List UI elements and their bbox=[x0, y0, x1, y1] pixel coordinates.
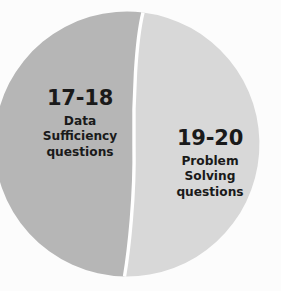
pie-label-data-sufficiency-line1: Data bbox=[20, 114, 140, 129]
pie-label-data-sufficiency-line3: questions bbox=[20, 145, 140, 160]
pie-label-data-sufficiency-text: Data Sufficiency questions bbox=[20, 114, 140, 160]
pie-label-problem-solving-line3: questions bbox=[150, 185, 270, 200]
pie-label-problem-solving-line1: Problem bbox=[150, 154, 270, 169]
pie-label-problem-solving-value: 19-20 bbox=[150, 128, 270, 149]
pie-label-problem-solving-line2: Solving bbox=[150, 169, 270, 184]
pie-label-problem-solving: 19-20 Problem Solving questions bbox=[150, 128, 270, 200]
pie-label-data-sufficiency: 17-18 Data Sufficiency questions bbox=[20, 88, 140, 160]
pie-chart: 17-18 Data Sufficiency questions 19-20 P… bbox=[0, 0, 281, 291]
pie-label-data-sufficiency-value: 17-18 bbox=[20, 88, 140, 109]
pie-label-problem-solving-text: Problem Solving questions bbox=[150, 154, 270, 200]
pie-label-data-sufficiency-line2: Sufficiency bbox=[20, 129, 140, 144]
